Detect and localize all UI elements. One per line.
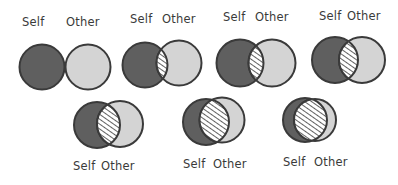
venn-diagram-3: SelfOther [217, 10, 296, 87]
other-label: Other [255, 10, 289, 24]
venn-diagram-7: SelfOther [283, 98, 348, 169]
self-label: Self [73, 159, 96, 173]
self-label: Self [130, 12, 153, 26]
self-label: Self [183, 157, 206, 171]
self-label: Self [283, 155, 306, 169]
venn-diagram-2: SelfOther [123, 12, 202, 88]
self-other-diagram-set: SelfOtherSelfOtherSelfOtherSelfOtherSelf… [0, 0, 398, 185]
other-label: Other [347, 9, 381, 23]
other-label: Other [162, 12, 196, 26]
other-label: Other [101, 159, 135, 173]
self-label: Self [22, 15, 45, 29]
other-circle [66, 45, 111, 90]
venn-diagram-6: SelfOther [183, 98, 247, 172]
self-label: Self [319, 9, 342, 23]
other-label: Other [66, 15, 100, 29]
venn-diagram-5: SelfOther [73, 101, 143, 173]
other-label: Other [213, 157, 247, 171]
venn-diagram-1: SelfOther [20, 15, 111, 90]
venn-diagram-4: SelfOther [312, 9, 385, 83]
self-circle [20, 45, 65, 90]
self-label: Self [223, 10, 246, 24]
other-label: Other [314, 155, 348, 169]
